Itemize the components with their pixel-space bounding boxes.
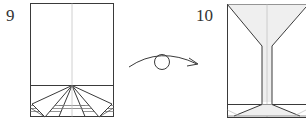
curved-arrow [129, 56, 197, 67]
turn-over-arrow [129, 55, 198, 70]
origami-diagram [0, 0, 306, 121]
step-10-figure [228, 5, 307, 118]
step-9-figure [31, 4, 114, 118]
turn-over-circle-icon [155, 55, 170, 70]
